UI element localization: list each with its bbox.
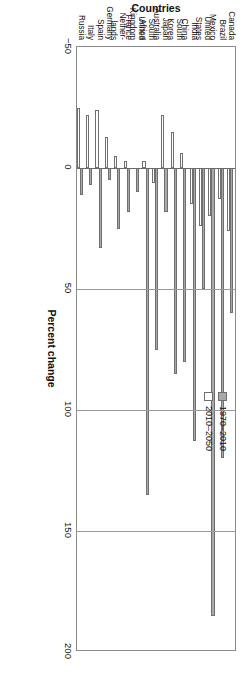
bar-series-container: [77, 47, 235, 650]
category-axis-tick-label: Brazil: [217, 20, 226, 40]
category-axis-tick-label: Canada: [227, 11, 236, 40]
bar: [143, 161, 146, 168]
bar: [136, 168, 139, 192]
bar: [180, 153, 183, 168]
bar: [171, 132, 174, 168]
bar: [80, 168, 83, 195]
legend-swatch-icon: [205, 392, 214, 401]
legend-swatch-icon: [219, 392, 228, 401]
bar: [208, 168, 211, 216]
value-axis-tick-label: 0: [63, 164, 74, 169]
bar: [146, 168, 149, 495]
legend-label: 1970–2010: [218, 406, 228, 451]
bar-chart-figure: Countries CanadaBrazilMexicoUnited State…: [0, 0, 250, 684]
chart-canvas: Countries CanadaBrazilMexicoUnited State…: [0, 0, 250, 684]
category-axis-tick-label: India: [189, 22, 198, 40]
legend-item: 2010–2050: [204, 392, 214, 451]
bar: [127, 168, 130, 212]
bar: [218, 168, 221, 199]
value-axis-tick-label: 50: [63, 283, 74, 294]
bar: [183, 168, 186, 362]
category-axis-tick-label: Germany: [104, 6, 113, 40]
value-axis-ticks: −50050100150200: [56, 46, 74, 651]
bar: [117, 168, 120, 229]
bar: [227, 168, 230, 231]
bar: [161, 115, 164, 168]
bar: [95, 110, 98, 168]
category-axis-tick-label: Russia: [76, 15, 85, 40]
gridline: [77, 289, 235, 290]
zero-axis-line: [77, 168, 235, 169]
value-axis-tick-label: 200: [63, 643, 74, 659]
bar: [86, 115, 89, 168]
legend-item: 1970–2010: [218, 392, 228, 451]
bar: [108, 168, 111, 180]
category-axis-tick-label: Italy: [86, 25, 95, 40]
category-axis-tick-label: Spain: [95, 19, 104, 40]
category-axis-labels: CanadaBrazilMexicoUnited StatesIndiaChin…: [76, 0, 236, 44]
legend-label: 2010–2050: [204, 406, 214, 451]
value-axis-tick-label: 150: [63, 522, 74, 538]
bar: [114, 156, 117, 168]
bar: [99, 168, 102, 248]
bar: [164, 168, 167, 212]
bar: [89, 168, 92, 185]
bar: [202, 168, 205, 289]
bar: [155, 168, 158, 350]
category-axis-tick-label: Japan: [161, 18, 170, 40]
bar: [199, 168, 202, 226]
value-axis-title: Percent change: [46, 46, 58, 651]
value-axis-tick-label: 100: [63, 401, 74, 417]
bar: [174, 168, 177, 374]
bar: [190, 168, 193, 204]
bar: [105, 137, 108, 168]
plot-area: [76, 46, 236, 651]
bar: [193, 168, 196, 441]
bar: [124, 161, 127, 168]
bar: [152, 168, 155, 183]
value-axis-tick-label: −50: [63, 38, 74, 54]
bar: [230, 168, 233, 313]
gridline: [77, 531, 235, 532]
chart-legend: 1970–2010 2010–2050: [200, 392, 228, 451]
bar: [77, 108, 80, 169]
